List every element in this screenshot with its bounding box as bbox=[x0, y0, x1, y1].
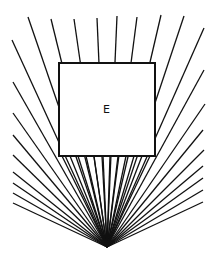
ray-diagram bbox=[0, 0, 221, 260]
box-label: E bbox=[103, 103, 110, 116]
